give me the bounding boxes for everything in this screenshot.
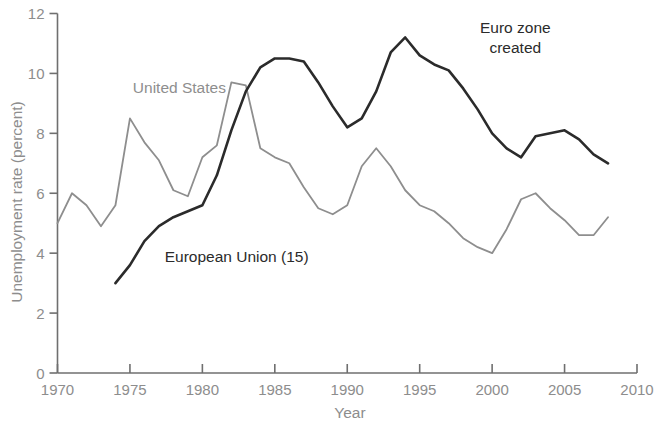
y-tick-label-6: 6: [36, 185, 44, 202]
x-tick-marks: [58, 364, 638, 373]
y-tick-labels: 024681012: [28, 5, 45, 382]
y-tick-label-12: 12: [28, 5, 45, 22]
x-tick-label-1985: 1985: [258, 381, 291, 398]
x-tick-labels: 197019751980198519901995200020052010: [41, 381, 654, 398]
y-axis-title: Unemployment rate (percent): [8, 101, 25, 303]
x-tick-label-1975: 1975: [113, 381, 146, 398]
x-tick-label-1990: 1990: [331, 381, 364, 398]
chart-annotations: Euro zonecreated: [480, 19, 551, 56]
y-tick-label-4: 4: [36, 245, 44, 262]
series-plot-area: [58, 37, 609, 283]
x-tick-label-1970: 1970: [41, 381, 74, 398]
x-tick-label-2010: 2010: [620, 381, 653, 398]
x-axis-title: Year: [334, 404, 365, 421]
chart-svg: 024681012 197019751980198519901995200020…: [0, 0, 661, 426]
x-tick-label-2000: 2000: [475, 381, 508, 398]
x-tick-label-2005: 2005: [548, 381, 581, 398]
series-label-united-states: United States: [133, 79, 226, 96]
x-tick-label-1980: 1980: [186, 381, 219, 398]
y-tick-label-8: 8: [36, 125, 44, 142]
y-tick-marks: [50, 14, 58, 374]
series-line-european-union-15: [115, 37, 608, 283]
unemployment-rate-chart: 024681012 197019751980198519901995200020…: [0, 0, 661, 426]
x-tick-label-1995: 1995: [403, 381, 436, 398]
x-axis-group: 197019751980198519901995200020052010: [41, 364, 654, 398]
y-axis-group: 024681012: [28, 5, 58, 382]
series-inline-labels: United StatesEuropean Union (15): [133, 79, 309, 265]
y-tick-label-0: 0: [36, 365, 44, 382]
y-tick-label-2: 2: [36, 305, 44, 322]
y-tick-label-10: 10: [28, 65, 45, 82]
series-label-european-union-15: European Union (15): [165, 248, 309, 265]
annotation-euro-zone-created: Euro zonecreated: [480, 19, 551, 56]
